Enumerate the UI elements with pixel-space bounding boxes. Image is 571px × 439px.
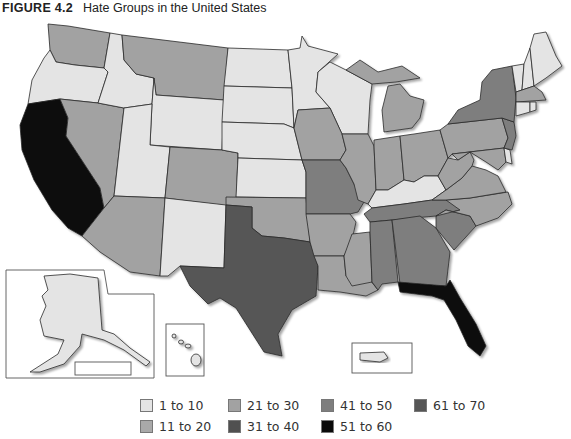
hawaii-island-kauai [172, 334, 176, 338]
legend-item: 1 to 10 [140, 398, 203, 413]
legend-label: 41 to 50 [340, 398, 392, 413]
legend-swatch [140, 399, 153, 412]
legend-label: 31 to 40 [247, 419, 299, 434]
territory-PR[interactable] [360, 352, 388, 362]
legend-label: 21 to 30 [247, 398, 299, 413]
aleutian-inset-frame [75, 362, 131, 375]
legend-swatch [321, 399, 334, 412]
us-map [0, 0, 571, 395]
state-ND[interactable] [224, 48, 292, 88]
legend-label: 61 to 70 [433, 398, 485, 413]
legend-label: 11 to 20 [159, 419, 211, 434]
legend-label: 1 to 10 [159, 398, 203, 413]
hawaii-island-oahu [179, 340, 184, 344]
state-HI[interactable] [191, 354, 201, 366]
state-RI[interactable] [530, 102, 536, 112]
state-WA[interactable] [48, 24, 110, 68]
state-ME[interactable] [530, 32, 562, 86]
legend-swatch [228, 420, 241, 433]
legend-item: 51 to 60 [321, 419, 392, 434]
hawaii-inset-frame [166, 324, 204, 376]
state-SD[interactable] [222, 86, 294, 128]
state-MI[interactable] [382, 84, 424, 132]
legend-item: 41 to 50 [321, 398, 392, 413]
legend: 1 to 10 11 to 20 21 to 30 31 to 40 41 to… [140, 398, 560, 438]
state-IN[interactable] [374, 136, 404, 190]
legend-swatch [228, 399, 241, 412]
state-NY[interactable] [448, 66, 516, 124]
state-AK[interactable] [30, 274, 150, 372]
legend-label: 51 to 60 [340, 419, 392, 434]
legend-item: 11 to 20 [140, 419, 211, 434]
state-NM[interactable] [160, 198, 226, 276]
legend-swatch [414, 399, 427, 412]
state-FL[interactable] [398, 280, 486, 356]
legend-item: 31 to 40 [228, 419, 299, 434]
hawaii-island-maui [185, 344, 191, 348]
legend-item: 61 to 70 [414, 398, 485, 413]
legend-swatch [321, 420, 334, 433]
state-CT[interactable] [516, 102, 530, 116]
legend-item: 21 to 30 [228, 398, 299, 413]
state-KS[interactable] [236, 158, 306, 198]
legend-swatch [140, 420, 153, 433]
